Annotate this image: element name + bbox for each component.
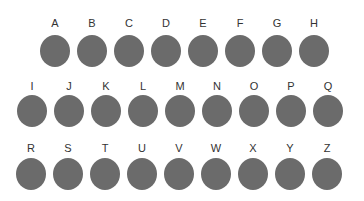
letter-label: E — [188, 17, 218, 29]
letter-label: D — [151, 17, 181, 29]
letter-dot-d[interactable] — [151, 35, 181, 67]
letter-dot-t[interactable] — [90, 158, 120, 190]
letter-label: C — [114, 17, 144, 29]
letter-dot-q[interactable] — [313, 95, 343, 127]
letter-label: J — [54, 80, 84, 92]
letter-dot-l[interactable] — [128, 95, 158, 127]
letter-label: P — [276, 80, 306, 92]
letter-label: B — [77, 17, 107, 29]
letter-dot-j[interactable] — [54, 95, 84, 127]
letter-dot-k[interactable] — [91, 95, 121, 127]
letter-label: F — [225, 17, 255, 29]
letter-dot-a[interactable] — [40, 35, 70, 67]
letter-dot-c[interactable] — [114, 35, 144, 67]
letter-dot-s[interactable] — [53, 158, 83, 190]
letter-label: Y — [275, 142, 305, 154]
letter-dot-f[interactable] — [225, 35, 255, 67]
letter-label: N — [202, 80, 232, 92]
letter-label: A — [40, 17, 70, 29]
letter-dot-i[interactable] — [17, 95, 47, 127]
letter-dot-y[interactable] — [275, 158, 305, 190]
letter-label: U — [127, 142, 157, 154]
letter-dot-u[interactable] — [127, 158, 157, 190]
letter-label: R — [16, 142, 46, 154]
letter-dot-h[interactable] — [299, 35, 329, 67]
letter-label: G — [262, 17, 292, 29]
letter-label: T — [90, 142, 120, 154]
letter-dot-v[interactable] — [164, 158, 194, 190]
letter-dot-o[interactable] — [239, 95, 269, 127]
letter-dot-e[interactable] — [188, 35, 218, 67]
letter-dot-r[interactable] — [16, 158, 46, 190]
letter-label: K — [91, 80, 121, 92]
letter-label: V — [164, 142, 194, 154]
letter-dot-n[interactable] — [202, 95, 232, 127]
letter-label: O — [239, 80, 269, 92]
letter-label: Z — [312, 142, 342, 154]
letter-label: S — [53, 142, 83, 154]
letter-label: Q — [313, 80, 343, 92]
letter-dot-g[interactable] — [262, 35, 292, 67]
letter-label: M — [165, 80, 195, 92]
letter-dot-x[interactable] — [238, 158, 268, 190]
letter-dot-p[interactable] — [276, 95, 306, 127]
letter-label: L — [128, 80, 158, 92]
letter-dot-w[interactable] — [201, 158, 231, 190]
letter-label: W — [201, 142, 231, 154]
letter-label: X — [238, 142, 268, 154]
letter-dot-b[interactable] — [77, 35, 107, 67]
letter-label: I — [17, 80, 47, 92]
letter-label: H — [299, 17, 329, 29]
letter-dot-z[interactable] — [312, 158, 342, 190]
letter-dot-m[interactable] — [165, 95, 195, 127]
